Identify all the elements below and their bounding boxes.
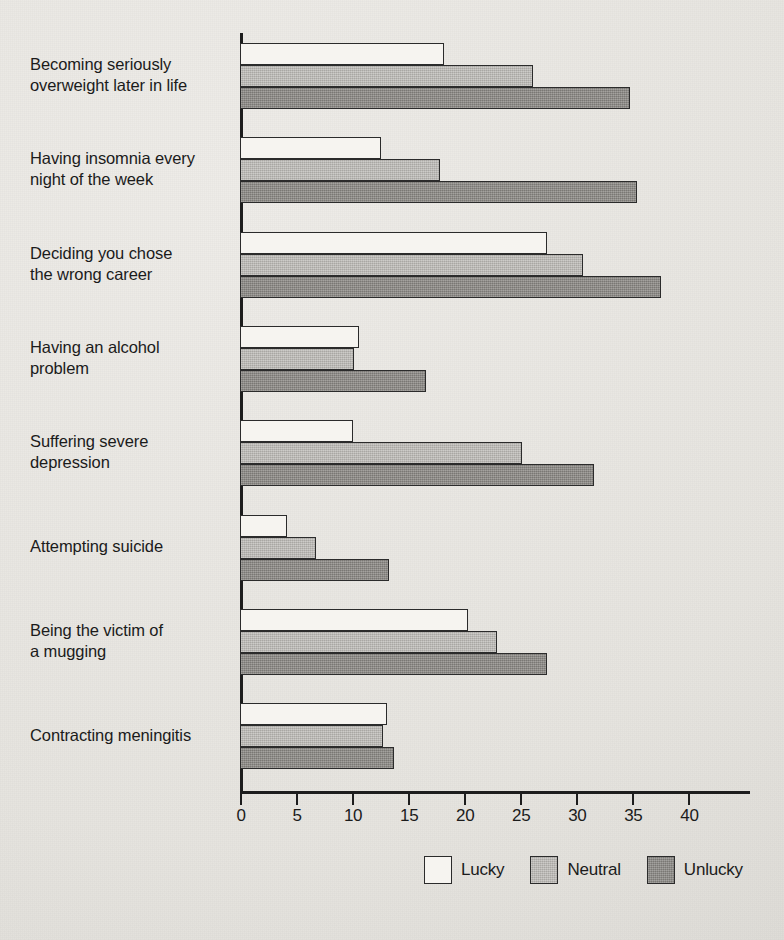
- legend-swatch-neutral: [530, 856, 558, 884]
- x-tick-mark-5: [296, 794, 298, 805]
- x-tick-mark-15: [408, 794, 410, 805]
- legend-item-unlucky[interactable]: Unlucky: [647, 856, 743, 884]
- x-tick-mark-40: [688, 794, 690, 805]
- x-tick-label-5: 5: [292, 806, 301, 826]
- category-label-1: Having insomnia every night of the week: [30, 148, 235, 190]
- x-tick-mark-0: [240, 794, 242, 805]
- x-tick-label-15: 15: [400, 806, 418, 826]
- x-tick-label-20: 20: [456, 806, 474, 826]
- legend-swatch-unlucky: [647, 856, 675, 884]
- category-label-0: Becoming seriously overweight later in l…: [30, 54, 235, 96]
- legend-label-lucky: Lucky: [461, 860, 504, 880]
- x-tick-label-25: 25: [512, 806, 530, 826]
- chart-legend: LuckyNeutralUnlucky: [424, 856, 743, 884]
- bar-lucky-group-7: [240, 703, 387, 725]
- legend-label-unlucky: Unlucky: [684, 860, 743, 880]
- category-label-5: Attempting suicide: [30, 536, 235, 557]
- bar-neutral-group-3: [240, 348, 354, 370]
- bar-unlucky-group-4: [240, 464, 594, 486]
- x-tick-mark-20: [464, 794, 466, 805]
- bar-lucky-group-6: [240, 609, 468, 631]
- bar-neutral-group-7: [240, 725, 383, 747]
- legend-item-neutral[interactable]: Neutral: [530, 856, 620, 884]
- x-tick-mark-30: [576, 794, 578, 805]
- grouped-bar-chart-figure: Becoming seriously overweight later in l…: [0, 0, 784, 940]
- bar-neutral-group-0: [240, 65, 533, 87]
- bar-unlucky-group-2: [240, 276, 661, 298]
- bar-unlucky-group-6: [240, 653, 547, 675]
- category-label-7: Contracting meningitis: [30, 725, 235, 746]
- bar-neutral-group-6: [240, 631, 497, 653]
- bar-lucky-group-3: [240, 326, 359, 348]
- bar-unlucky-group-5: [240, 559, 389, 581]
- category-label-4: Suffering severe depression: [30, 431, 235, 473]
- category-label-2: Deciding you chose the wrong career: [30, 243, 235, 285]
- bar-unlucky-group-3: [240, 370, 426, 392]
- x-tick-label-35: 35: [624, 806, 642, 826]
- bar-lucky-group-2: [240, 232, 547, 254]
- x-tick-label-0: 0: [236, 806, 245, 826]
- bar-unlucky-group-7: [240, 747, 394, 769]
- bar-lucky-group-4: [240, 420, 353, 442]
- bar-neutral-group-2: [240, 254, 583, 276]
- x-tick-label-40: 40: [680, 806, 698, 826]
- bar-neutral-group-1: [240, 159, 440, 181]
- bar-unlucky-group-0: [240, 87, 630, 109]
- x-tick-label-10: 10: [344, 806, 362, 826]
- bar-lucky-group-1: [240, 137, 381, 159]
- category-label-6: Being the victim of a mugging: [30, 620, 235, 662]
- bar-unlucky-group-1: [240, 181, 637, 203]
- bar-neutral-group-5: [240, 537, 316, 559]
- category-label-3: Having an alcohol problem: [30, 337, 235, 379]
- legend-item-lucky[interactable]: Lucky: [424, 856, 504, 884]
- x-tick-mark-25: [520, 794, 522, 805]
- bar-lucky-group-0: [240, 43, 444, 65]
- bar-neutral-group-4: [240, 442, 522, 464]
- legend-swatch-lucky: [424, 856, 452, 884]
- x-tick-label-30: 30: [568, 806, 586, 826]
- x-tick-mark-35: [632, 794, 634, 805]
- x-tick-mark-10: [352, 794, 354, 805]
- bar-lucky-group-5: [240, 515, 287, 537]
- legend-label-neutral: Neutral: [567, 860, 620, 880]
